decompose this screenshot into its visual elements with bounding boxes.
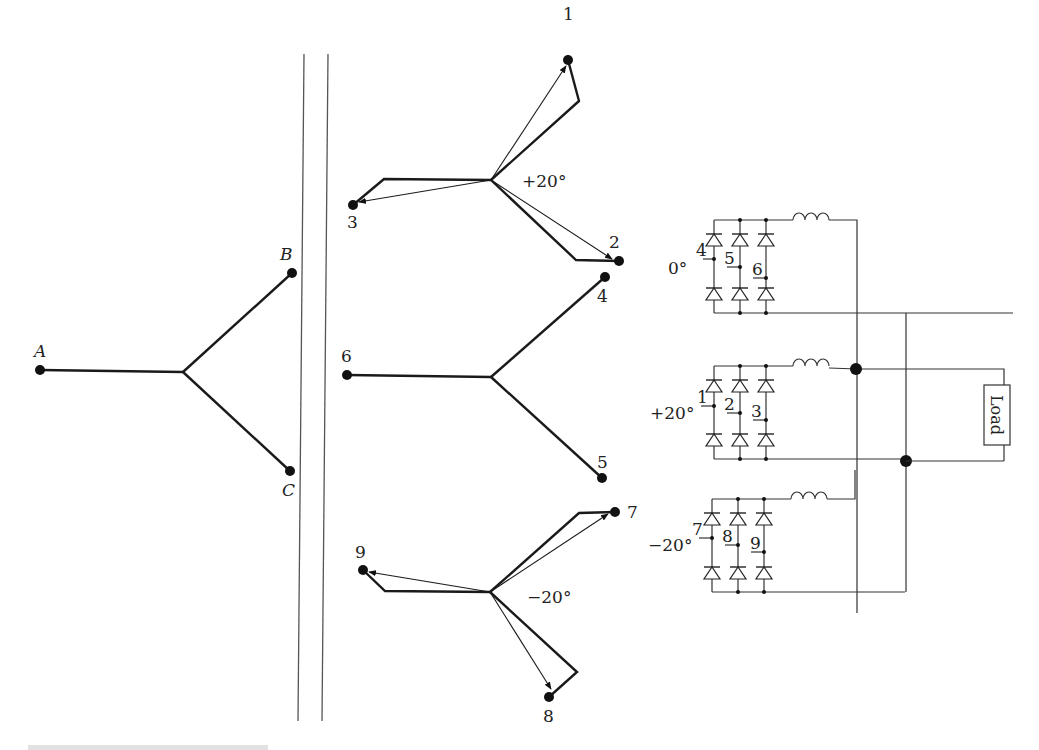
- terminal-3-label: 3: [347, 212, 358, 232]
- bridge-plus20-angle-label: +20°: [650, 403, 694, 423]
- bridge-plus20-phase-1: 1: [697, 387, 708, 407]
- bridge-rectifier-0deg: 4 5 6 0°: [668, 213, 1013, 613]
- inductor-0deg: [793, 213, 829, 220]
- dc-bus-and-load: Load: [850, 313, 1013, 592]
- secondary-plus20-star: 1 2 3 +20°: [347, 4, 624, 266]
- bridge-minus20-phase-9: 9: [750, 533, 761, 553]
- terminal-4-label: 4: [597, 286, 608, 306]
- diagram-canvas: A B C 1 2 3 +20° 4 5 6: [0, 0, 1039, 750]
- transformer-core: [298, 54, 328, 721]
- secondary-zero-star: 4 5 6: [341, 272, 610, 483]
- terminal-1-label: 1: [563, 4, 574, 24]
- bridge-0-phase-6: 6: [752, 259, 763, 279]
- label-b: B: [279, 244, 293, 264]
- bridge-plus20-phase-3: 3: [751, 401, 762, 421]
- load-label: Load: [987, 395, 1006, 435]
- bridge-0-angle-label: 0°: [668, 258, 687, 278]
- positive-junction-dot: [850, 363, 862, 375]
- label-a: A: [32, 341, 46, 361]
- terminal-2-label: 2: [609, 232, 620, 252]
- secondary-minus20-star: 7 8 9 −20°: [355, 502, 638, 726]
- phase-shift-plus20-label: +20°: [522, 171, 566, 191]
- bridge-rectifier-plus20deg: 1 2 3 +20°: [650, 359, 1004, 461]
- terminal-8-label: 8: [543, 706, 554, 726]
- cropped-caption: [28, 745, 268, 750]
- terminal-9-label: 9: [355, 542, 366, 562]
- terminal-7-label: 7: [627, 502, 638, 522]
- bridge-minus20-phase-8: 8: [722, 526, 733, 546]
- bridge-minus20-phase-7: 7: [692, 519, 703, 539]
- circuit-diagram: A B C 1 2 3 +20° 4 5 6: [0, 0, 1039, 750]
- inductor-plus20deg: [793, 359, 829, 366]
- bridge-minus20-angle-label: −20°: [648, 535, 692, 555]
- phase-shift-minus20-label: −20°: [527, 587, 571, 607]
- terminal-5-label: 5: [597, 452, 608, 472]
- bridge-0-phase-4: 4: [696, 240, 707, 260]
- bridge-plus20-phase-2: 2: [724, 394, 735, 414]
- terminal-6-label: 6: [341, 346, 352, 366]
- bridge-0-phase-5: 5: [724, 248, 735, 268]
- label-c: C: [282, 480, 295, 500]
- inductor-minus20deg: [791, 492, 827, 499]
- primary-winding-star: A B C: [32, 244, 297, 500]
- bridge-rectifier-minus20deg: 7 8 9 −20°: [648, 470, 905, 594]
- terminal-c-dot: [285, 466, 295, 476]
- terminal-b-dot: [287, 268, 297, 278]
- terminal-a-dot: [35, 365, 45, 375]
